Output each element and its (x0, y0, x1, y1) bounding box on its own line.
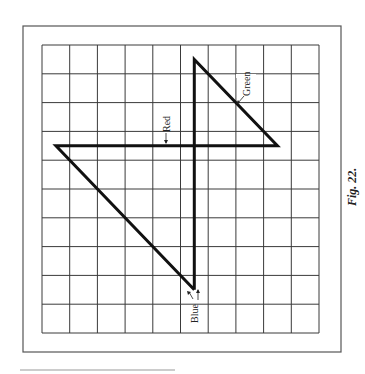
green-label-group: Green (236, 72, 256, 104)
red-arrowhead-icon (164, 140, 168, 144)
blue-arrowhead-up-icon (196, 289, 200, 293)
figure-canvas: Red Green Blue Fig. 22. (0, 0, 365, 374)
red-label: Red (161, 116, 172, 132)
figure-caption: Fig. 22. (345, 168, 359, 207)
blue-label-group: Blue (187, 289, 200, 323)
blue-label: Blue (189, 304, 200, 323)
green-label: Green (241, 72, 252, 96)
red-label-group: Red (161, 116, 172, 144)
grid (42, 45, 319, 333)
